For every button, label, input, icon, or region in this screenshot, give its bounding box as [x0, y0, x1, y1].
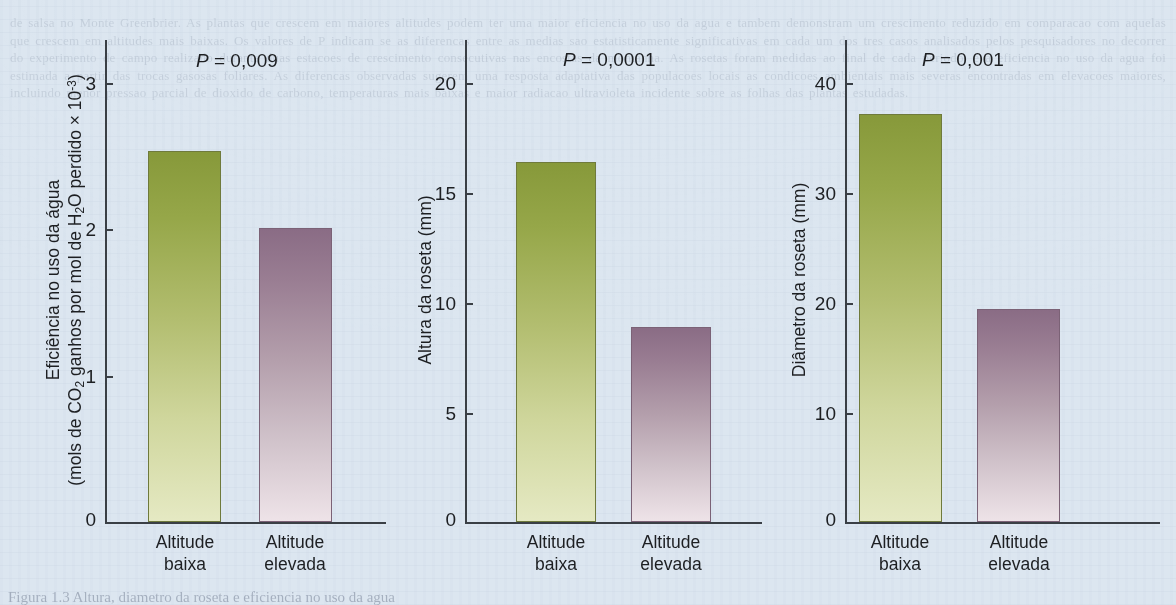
y-axis-line-2 [465, 40, 467, 524]
x-category-label-3-baixa: Altitude baixa [844, 531, 956, 575]
p-value-label-1: P = 0,009 [196, 50, 278, 72]
y-axis-line-1 [105, 40, 107, 524]
x-category-label-1-elevada: Altitude elevada [239, 531, 351, 575]
bar-2-altitude-baixa [516, 162, 596, 522]
y-tick-mark-3-40 [846, 83, 853, 85]
bar-3-altitude-baixa [859, 114, 942, 522]
x-axis-line-1 [105, 522, 386, 524]
y-tick-mark-1-1 [106, 376, 113, 378]
y-axis-title-2: Altura da roseta (mm) [414, 38, 437, 522]
p-symbol-3: P [922, 49, 935, 70]
chart-panel-water-use-efficiency: 3 2 1 0 Eficiência no uso da água (mols … [0, 0, 410, 605]
y-tick-mark-3-10 [846, 413, 853, 415]
p-value-label-2: P = 0,0001 [563, 49, 655, 71]
y-tick-mark-2-10 [466, 303, 473, 305]
x-category-label-1-baixa: Altitude baixa [129, 531, 241, 575]
p-value-label-3: P = 0,001 [922, 49, 1004, 71]
chart-panel-rosette-height: 20 15 10 5 0 Altura da roseta (mm) P = 0… [400, 0, 790, 605]
bar-1-altitude-baixa [148, 151, 221, 522]
y-axis-title-1-line2-text: (mols de CO2 ganhos por mol de H2O perdi… [65, 74, 85, 485]
p-symbol-2: P [563, 49, 576, 70]
y-tick-mark-2-5 [466, 413, 473, 415]
x-category-label-3-elevada: Altitude elevada [963, 531, 1075, 575]
y-tick-mark-2-20 [466, 83, 473, 85]
y-tick-mark-3-30 [846, 193, 853, 195]
y-tick-mark-2-15 [466, 193, 473, 195]
figure-caption-text: Figura 1.3 Altura, diametro da roseta e … [8, 591, 395, 605]
x-category-label-2-baixa: Altitude baixa [500, 531, 612, 575]
bar-2-altitude-elevada [631, 327, 711, 522]
x-axis-line-3 [845, 522, 1160, 524]
y-tick-mark-3-0 [846, 522, 853, 524]
bar-3-altitude-elevada [977, 309, 1060, 522]
y-axis-line-3 [845, 40, 847, 524]
p-value-text-2: = 0,0001 [581, 49, 656, 70]
y-tick-mark-2-0 [466, 522, 473, 524]
x-category-label-2-elevada: Altitude elevada [615, 531, 727, 575]
bar-1-altitude-elevada [259, 228, 332, 522]
y-tick-mark-1-0 [106, 522, 113, 524]
p-value-text-3: = 0,001 [940, 49, 1004, 70]
y-tick-mark-1-2 [106, 229, 113, 231]
y-tick-mark-3-20 [846, 303, 853, 305]
y-axis-title-3: Diâmetro da roseta (mm) [788, 38, 811, 522]
y-axis-title-1-line1: Eficiência no uso da água [43, 38, 64, 522]
p-symbol-1: P [196, 50, 209, 71]
p-value-text-1: = 0,009 [214, 50, 278, 71]
chart-panel-rosette-diameter: 40 30 20 10 0 Diâmetro da roseta (mm) P … [780, 0, 1176, 605]
figure-caption-cropped: Figura 1.3 Altura, diametro da roseta e … [0, 591, 1176, 605]
x-axis-line-2 [465, 522, 762, 524]
y-tick-mark-1-3 [106, 83, 113, 85]
y-axis-title-1-line2: (mols de CO2 ganhos por mol de H2O perdi… [65, 38, 87, 522]
figure-three-bar-charts: 3 2 1 0 Eficiência no uso da água (mols … [0, 0, 1176, 605]
